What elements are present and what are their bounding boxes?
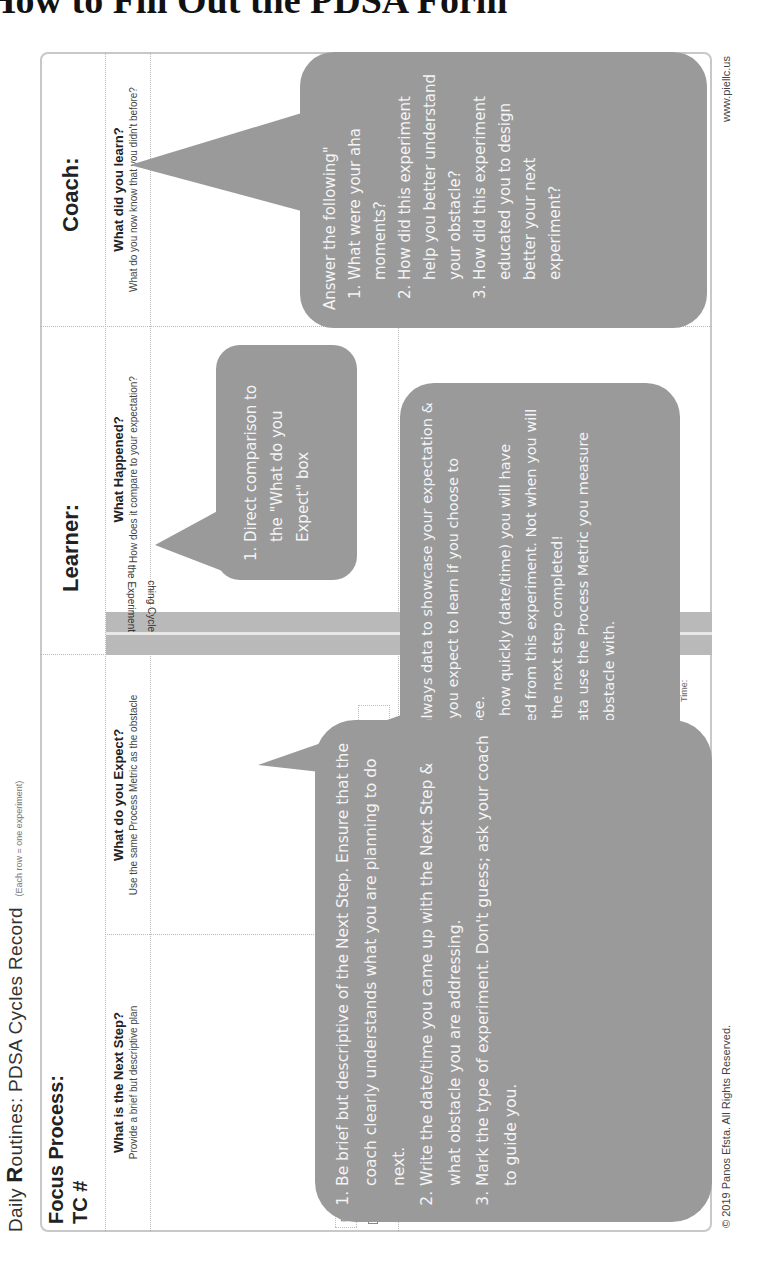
copyright: © 2019 Panos Efsta. All Rights Reserved. bbox=[720, 1025, 732, 1228]
page-heading: How to Fill Out the PDSA Form bbox=[0, 0, 507, 22]
callout-item: How did this experiment help you better … bbox=[393, 66, 468, 280]
title-part: outines: PDSA Cycles Record bbox=[5, 907, 26, 1166]
callout-item: Direct comparison to the "What do you Ex… bbox=[238, 359, 316, 542]
title-note: (Each row = one experiment) bbox=[14, 781, 24, 897]
pdsa-form: Daily Routines: PDSA Cycles Record (Each… bbox=[40, 50, 715, 1232]
callout-item: Write how quickly (date/time) you will h… bbox=[492, 395, 570, 759]
callout-item: Mark the type of experiment. Don't guess… bbox=[469, 732, 525, 1186]
pdsa-form-rotated: Daily Routines: PDSA Cycles Record (Each… bbox=[40, 50, 715, 1232]
callout-item: Be brief but descriptive of the Next Ste… bbox=[329, 732, 413, 1186]
callout-item: How did this experiment educated you to … bbox=[468, 66, 568, 280]
title-initial: R bbox=[2, 1166, 27, 1182]
callout-item: Write the date/time you came up with the… bbox=[413, 732, 469, 1186]
callout-learn: Answer the following" What were your aha… bbox=[300, 52, 707, 328]
form-title: Daily Routines: PDSA Cycles Record (Each… bbox=[2, 781, 32, 1232]
callout-item: Use always data to showcase your expecta… bbox=[414, 395, 492, 759]
callout-happened: Direct comparison to the "What do you Ex… bbox=[216, 345, 357, 580]
callout-item: What were your aha moments? bbox=[343, 66, 393, 280]
callout-next-step: Be brief but descriptive of the Next Ste… bbox=[315, 720, 712, 1222]
callout-intro: Answer the following" bbox=[318, 66, 343, 310]
callout-item: For data use the Process Metric you meas… bbox=[570, 395, 622, 759]
website-link[interactable]: www.piellc.us bbox=[720, 56, 732, 122]
title-part: Daily bbox=[5, 1183, 26, 1232]
